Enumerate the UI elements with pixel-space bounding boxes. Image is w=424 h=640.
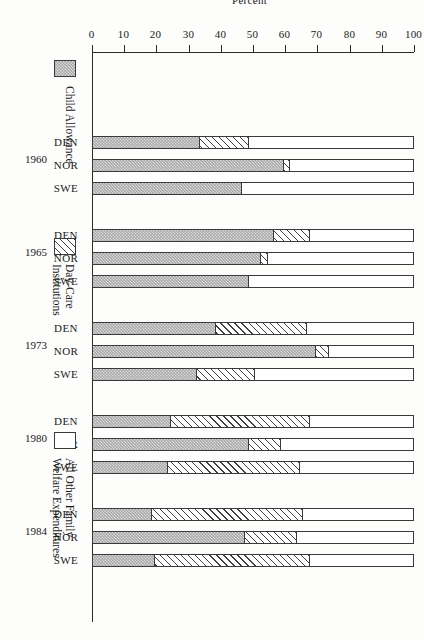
segment-all-other <box>296 532 414 543</box>
figure-page: Percent 0102030405060708090100DENNORSWE1… <box>0 0 424 640</box>
stacked-bar <box>92 508 414 521</box>
segment-day-care <box>154 555 309 566</box>
segment-divider <box>254 369 255 380</box>
value-axis-tick <box>221 45 222 52</box>
stacked-bar <box>92 275 414 288</box>
stacked-bar <box>92 554 414 567</box>
segment-child-allowance <box>93 439 248 450</box>
segment-child-allowance <box>93 555 154 566</box>
stacked-bar <box>92 461 414 474</box>
segment-all-other <box>280 439 414 450</box>
legend-swatch-child-allowance-icon <box>54 60 76 77</box>
segment-all-other <box>302 509 414 520</box>
stacked-bar <box>92 229 414 242</box>
value-axis-tick <box>92 45 93 52</box>
value-axis-tick <box>382 45 383 52</box>
stacked-bar <box>92 252 414 265</box>
segment-child-allowance <box>93 323 215 334</box>
stacked-bar <box>92 438 414 451</box>
segment-all-other <box>309 555 414 566</box>
segment-child-allowance <box>93 253 260 264</box>
segment-child-allowance <box>93 509 151 520</box>
value-axis-tick <box>285 45 286 52</box>
segment-divider <box>248 137 249 148</box>
segment-day-care <box>248 439 280 450</box>
segment-divider <box>244 532 245 543</box>
segment-divider <box>248 439 249 450</box>
stacked-bar <box>92 531 414 544</box>
value-axis-tick <box>414 45 415 52</box>
segment-all-other <box>248 276 414 287</box>
stacked-bar <box>92 368 414 381</box>
segment-child-allowance <box>93 230 273 241</box>
segment-child-allowance <box>93 462 167 473</box>
segment-all-other <box>299 462 414 473</box>
stacked-bar <box>92 136 414 149</box>
segment-day-care <box>199 137 247 148</box>
segment-divider <box>306 323 307 334</box>
chart-canvas: Percent 0102030405060708090100DENNORSWE1… <box>0 0 424 640</box>
value-axis-spine <box>92 52 414 53</box>
segment-all-other <box>309 416 414 427</box>
segment-day-care <box>196 369 254 380</box>
segment-all-other <box>289 160 414 171</box>
segment-child-allowance <box>93 137 199 148</box>
segment-child-allowance <box>93 416 170 427</box>
stacked-bar <box>92 345 414 358</box>
segment-divider <box>309 230 310 241</box>
segment-divider <box>299 462 300 473</box>
segment-divider <box>273 230 274 241</box>
segment-divider <box>309 555 310 566</box>
value-axis-tick <box>124 45 125 52</box>
legend-label: Day-Care Institutions <box>51 264 76 316</box>
segment-divider <box>315 346 316 357</box>
segment-all-other <box>328 346 414 357</box>
segment-divider <box>280 439 281 450</box>
value-axis-tick <box>189 45 190 52</box>
chart-legend: Child AllowanceDay-Care InstitutionsAll … <box>6 60 76 620</box>
segment-divider <box>260 253 261 264</box>
segment-all-other <box>254 369 414 380</box>
segment-divider <box>170 416 171 427</box>
segment-divider <box>283 160 284 171</box>
stacked-bar <box>92 159 414 172</box>
segment-divider <box>302 509 303 520</box>
segment-child-allowance <box>93 160 283 171</box>
segment-divider <box>241 183 242 194</box>
legend-item-day-care: Day-Care Institutions <box>51 238 76 316</box>
segment-divider <box>296 532 297 543</box>
segment-divider <box>267 253 268 264</box>
segment-child-allowance <box>93 276 248 287</box>
segment-divider <box>309 416 310 427</box>
segment-all-other <box>248 137 414 148</box>
segment-all-other <box>267 253 414 264</box>
value-axis-tick <box>253 45 254 52</box>
legend-item-all-other: All Other Family Welfare Expenditures <box>51 432 76 558</box>
segment-day-care <box>315 346 328 357</box>
segment-day-care <box>167 462 299 473</box>
legend-item-child-allowance: Child Allowance <box>54 60 76 164</box>
segment-child-allowance <box>93 532 244 543</box>
value-axis-tick <box>156 45 157 52</box>
segment-divider <box>154 555 155 566</box>
stacked-bar <box>92 322 414 335</box>
segment-divider <box>196 369 197 380</box>
stacked-bar <box>92 415 414 428</box>
legend-swatch-all-other-icon <box>54 432 76 449</box>
segment-day-care <box>244 532 296 543</box>
segment-day-care <box>273 230 308 241</box>
rotated-figure-container: Percent 0102030405060708090100DENNORSWE1… <box>0 0 424 640</box>
segment-day-care <box>151 509 302 520</box>
segment-all-other <box>241 183 414 194</box>
segment-day-care <box>170 416 308 427</box>
segment-divider <box>328 346 329 357</box>
segment-divider <box>289 160 290 171</box>
segment-child-allowance <box>93 346 315 357</box>
segment-divider <box>167 462 168 473</box>
segment-divider <box>248 276 249 287</box>
segment-divider <box>151 509 152 520</box>
stacked-bar <box>92 182 414 195</box>
segment-divider <box>215 323 216 334</box>
segment-child-allowance <box>93 369 196 380</box>
value-axis-title: Percent <box>232 0 267 6</box>
